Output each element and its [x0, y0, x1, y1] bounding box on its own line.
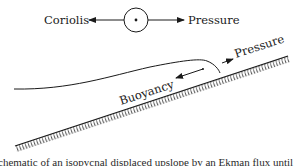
vector-dot-icon — [135, 19, 138, 22]
coriolis-label: Coriolis — [44, 13, 89, 27]
slope-line — [15, 56, 288, 146]
pressure-label-slope: Pressure — [233, 32, 287, 61]
buoyancy-arrow-icon — [176, 69, 203, 78]
force-balance-top: Coriolis Pressure — [44, 8, 240, 32]
upslope-pressure-arrow-icon — [222, 59, 233, 63]
pressure-label-top: Pressure — [188, 13, 240, 27]
diagram-canvas: Coriolis Pressure Pressure Buoyancy chem… — [0, 0, 299, 166]
pivot-dot-icon — [202, 68, 204, 70]
sloping-seafloor — [15, 56, 290, 152]
seafloor-hatching-icon — [15, 56, 290, 152]
figure-caption: chematic of an isopycnal displaced upslo… — [0, 156, 293, 166]
isopycnal-curve — [14, 60, 220, 89]
